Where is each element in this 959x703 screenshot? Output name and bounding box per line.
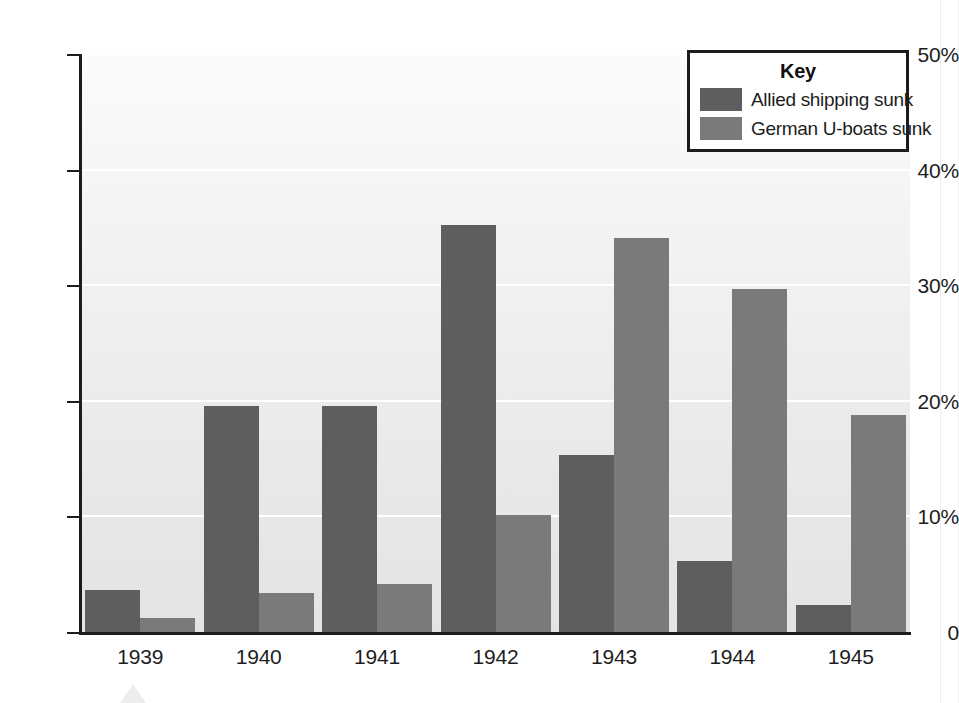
y-tick-50 bbox=[67, 54, 80, 56]
y-axis-line bbox=[79, 54, 82, 635]
bar-1944-german-uboats-sunk bbox=[732, 289, 787, 633]
bar-1939-allied-shipping-sunk bbox=[85, 590, 140, 633]
legend-label-allied: Allied shipping sunk bbox=[751, 89, 913, 111]
bar-1941-german-uboats-sunk bbox=[377, 584, 432, 633]
y-tick-0 bbox=[67, 632, 80, 634]
x-tick-label-1939: 1939 bbox=[117, 645, 163, 669]
bar-1942-allied-shipping-sunk bbox=[441, 225, 496, 633]
x-axis-line bbox=[79, 632, 911, 635]
bar-1945-allied-shipping-sunk bbox=[796, 605, 851, 633]
y-tick-30 bbox=[67, 285, 80, 287]
bar-1942-german-uboats-sunk bbox=[496, 515, 551, 633]
figure-page: shed considerable damage to shipping, wh… bbox=[0, 0, 959, 703]
legend-swatch-icon-uboats bbox=[700, 117, 742, 140]
bar-1940-german-uboats-sunk bbox=[259, 593, 314, 633]
x-tick-label-1941: 1941 bbox=[354, 645, 400, 669]
legend-swatch-icon-allied bbox=[700, 88, 742, 111]
y-tick-label-40: 40% bbox=[897, 159, 959, 183]
bar-1944-allied-shipping-sunk bbox=[677, 561, 732, 633]
y-tick-20 bbox=[67, 401, 80, 403]
legend: Key Allied shipping sunk German U-boats … bbox=[687, 50, 909, 152]
bar-1940-allied-shipping-sunk bbox=[204, 406, 259, 633]
legend-title: Key bbox=[700, 60, 896, 83]
y-tick-label-0: 0 bbox=[897, 621, 959, 645]
bar-1943-allied-shipping-sunk bbox=[559, 455, 614, 633]
y-tick-label-10: 10% bbox=[897, 505, 959, 529]
x-tick-label-1942: 1942 bbox=[473, 645, 519, 669]
legend-label-uboats: German U-boats sunk bbox=[751, 118, 931, 140]
legend-entry-allied-shipping-sunk: Allied shipping sunk bbox=[700, 88, 896, 111]
legend-entry-german-uboats-sunk: German U-boats sunk bbox=[700, 117, 896, 140]
bar-chart: 010%20%30%40%50% 19391940194119421943194… bbox=[0, 0, 959, 703]
bar-1941-allied-shipping-sunk bbox=[322, 406, 377, 633]
bar-1943-german-uboats-sunk bbox=[614, 238, 669, 633]
bar-1939-german-uboats-sunk bbox=[140, 618, 195, 633]
y-tick-label-30: 30% bbox=[897, 274, 959, 298]
x-tick-label-1944: 1944 bbox=[709, 645, 755, 669]
x-tick-label-1943: 1943 bbox=[591, 645, 637, 669]
y-tick-label-20: 20% bbox=[897, 390, 959, 414]
y-tick-10 bbox=[67, 516, 80, 518]
x-tick-label-1945: 1945 bbox=[828, 645, 874, 669]
x-tick-label-1940: 1940 bbox=[236, 645, 282, 669]
y-tick-40 bbox=[67, 170, 80, 172]
